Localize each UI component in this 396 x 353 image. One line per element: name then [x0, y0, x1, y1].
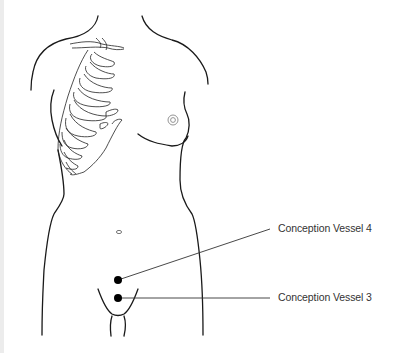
point-cv3-marker[interactable]: [114, 294, 122, 302]
label-conception-vessel-4: Conception Vessel 4: [278, 222, 372, 234]
leader-line-cv4: [118, 229, 270, 280]
rib-cage-icon: [58, 38, 124, 175]
label-conception-vessel-3: Conception Vessel 3: [278, 291, 372, 303]
body-outline: [31, 16, 208, 336]
point-cv4-marker[interactable]: [114, 276, 122, 284]
navel-icon: [116, 230, 121, 233]
nipple-icon: [168, 115, 178, 125]
